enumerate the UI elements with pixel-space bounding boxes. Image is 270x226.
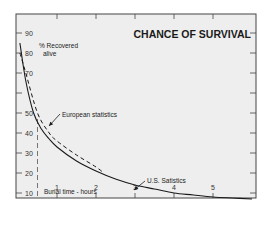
y-tick-label: 90 <box>25 30 33 37</box>
y-tick-label: 30 <box>25 150 33 157</box>
y-tick-label: 80 <box>25 50 33 57</box>
us-annotation: U.S. Satistics <box>147 177 186 184</box>
y-tick-label: 40 <box>25 130 33 137</box>
y-axis-label-line1: % Recovered <box>39 42 78 49</box>
y-axis-label-line2: alive <box>43 50 57 57</box>
x-axis-label: Burial time - hours <box>44 188 97 195</box>
european-annotation: European statistics <box>62 111 118 119</box>
x-tick-label: 4 <box>172 184 176 191</box>
x-tick-label: 5 <box>211 184 215 191</box>
survival-chart: 123451020304050708090 CHANCE OF SURVIVAL… <box>0 0 270 226</box>
chart-title: CHANCE OF SURVIVAL <box>134 28 252 40</box>
y-tick-label: 50 <box>25 110 33 117</box>
y-tick-label: 20 <box>25 170 33 177</box>
y-tick-label: 10 <box>25 190 33 197</box>
